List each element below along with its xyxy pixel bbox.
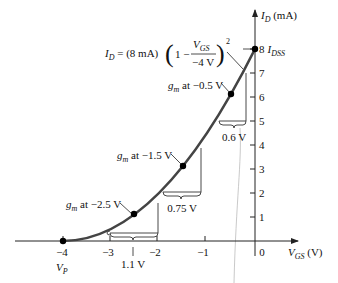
- svg-text:2: 2: [259, 187, 265, 199]
- svg-text:1.1 V: 1.1 V: [121, 258, 145, 270]
- y-axis-title: ID (mA): [260, 9, 297, 24]
- svg-text:−3: −3: [102, 246, 114, 258]
- vp-label: VP: [56, 261, 68, 276]
- svg-text:−4: −4: [56, 246, 68, 258]
- svg-text:−4 V: −4 V: [192, 56, 214, 68]
- x-tick-labels: −4 −3 −2 −1 0: [56, 246, 265, 258]
- equation: ID = (8 mA) ( 1 − VGS −4 V ) 2: [104, 37, 230, 68]
- svg-text:0.75 V: 0.75 V: [167, 202, 197, 214]
- idss-label: 8IDSS: [259, 43, 285, 58]
- svg-text:(: (: [165, 39, 174, 68]
- svg-text:3: 3: [259, 163, 265, 175]
- svg-text:0.6 V: 0.6 V: [222, 131, 246, 143]
- gm-label-15: gm at −1.5 V: [117, 149, 172, 164]
- svg-text:−1: −1: [197, 246, 209, 258]
- svg-text:): ): [216, 39, 225, 68]
- gm-label-25: gm at −2.5 V: [66, 198, 121, 213]
- transfer-curve: [63, 49, 255, 241]
- marked-points: [60, 46, 258, 244]
- y-tick-labels: 7 6 5 4 3 2 1: [259, 67, 265, 223]
- svg-text:6: 6: [259, 91, 265, 103]
- chart-svg: ID (mA) 8IDSS 7 6 5 4 3 2 1 −4 −3 −2 −1 …: [0, 0, 338, 283]
- guide-line: [234, 128, 240, 283]
- svg-text:−2: −2: [149, 246, 161, 258]
- svg-text:7: 7: [259, 67, 265, 79]
- jfet-transfer-chart: ID (mA) 8IDSS 7 6 5 4 3 2 1 −4 −3 −2 −1 …: [0, 0, 338, 283]
- svg-text:1 −: 1 −: [175, 48, 189, 60]
- svg-text:4: 4: [259, 139, 265, 151]
- x-axis-title: VGS (V): [288, 246, 323, 261]
- y-ticks: [250, 49, 255, 217]
- svg-text:0: 0: [259, 246, 265, 258]
- svg-text:5: 5: [259, 115, 265, 127]
- svg-text:2: 2: [226, 37, 230, 46]
- gm-label-05: gm at −0.5 V: [168, 79, 223, 94]
- eq-numerator: VGS: [193, 38, 210, 53]
- svg-text:ID = (8 mA): ID = (8 mA): [104, 47, 159, 62]
- svg-text:1: 1: [259, 211, 265, 223]
